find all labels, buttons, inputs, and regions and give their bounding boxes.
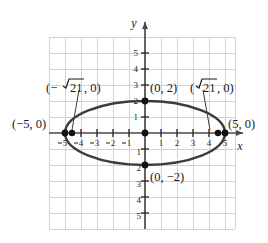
x-tick-label-1: 1 <box>159 138 164 148</box>
label-covertex-top: (0, 2) <box>150 81 177 95</box>
label-focus-left: (− 21 , 0) <box>46 79 101 95</box>
label-focus-right-close: , 0) <box>217 81 234 95</box>
y-tick-label-3: 3 <box>134 80 139 90</box>
point-vertex-left <box>62 130 69 137</box>
label-focus-left-open: (− <box>46 81 57 95</box>
point-center <box>142 130 149 137</box>
x-tick-label-4: 4 <box>207 138 212 148</box>
point-focus-right <box>215 130 221 136</box>
ellipse-graph-figure: 5 4 3 2 1 1 2 3 4 5 5 4 3 2 1 1 2 3 4 5 … <box>0 0 268 243</box>
y-tick-label-1: 1 <box>134 112 139 122</box>
y-tick-label--4: 4 <box>137 195 142 205</box>
label-focus-left-close: , 0) <box>84 81 101 95</box>
point-focus-left <box>69 130 75 136</box>
y-tick-label--5: 5 <box>137 211 142 221</box>
label-vertex-left: (−5, 0) <box>12 117 46 131</box>
x-tick-label--1: 1 <box>127 138 132 148</box>
x-tick-label-2: 2 <box>175 138 180 148</box>
label-covertex-bottom: (0, −2) <box>150 170 184 184</box>
x-tick-label--3: 3 <box>95 138 100 148</box>
y-tick-label-4: 4 <box>134 64 139 74</box>
x-tick-label--2: 2 <box>111 138 116 148</box>
y-tick-label--1: 1 <box>137 147 142 157</box>
x-tick-label--4: 4 <box>79 138 84 148</box>
x-axis-label: x <box>236 139 243 153</box>
label-focus-left-radicand: 21 <box>70 81 83 95</box>
point-covertex-bottom <box>142 162 149 169</box>
x-tick-label-3: 3 <box>191 138 196 148</box>
y-tick-label--3: 3 <box>137 179 142 189</box>
y-axis-label: y <box>130 16 137 30</box>
label-focus-right-radicand: 21 <box>203 81 216 95</box>
y-tick-label-5: 5 <box>134 48 139 58</box>
label-focus-right-open: ( <box>190 81 194 95</box>
point-covertex-top <box>142 98 149 105</box>
label-vertex-right: (5, 0) <box>228 117 255 131</box>
